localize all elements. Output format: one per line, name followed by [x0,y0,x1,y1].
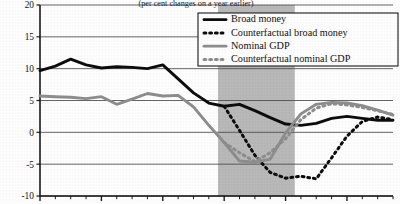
y-tick-label: -10 [22,191,35,201]
chart-legend: Broad moneyCounterfactual broad moneyNom… [198,13,398,66]
x-tick-label: 2010 [276,202,295,204]
x-tick-label: 2007 [92,202,111,204]
economic-line-chart: 20151050-5-10 200620072008200920102011 (… [0,0,400,203]
x-tick-label: 2009 [215,202,234,204]
legend-label: Counterfactual broad money [231,27,348,38]
y-tick-label: 5 [29,96,34,106]
y-tick-label: 15 [25,32,35,42]
y-tick-label: -5 [26,160,34,170]
legend-label: Counterfactual nominal GDP [231,53,351,64]
y-tick-label: 0 [29,128,34,138]
x-tick-label: 2011 [338,202,357,204]
x-tick-label: 2006 [30,202,49,204]
chart-subtitle: (per cent changes on a year earlier) [138,0,253,8]
x-tick-label: 2008 [153,202,172,204]
chart-container: 20151050-5-10 200620072008200920102011 (… [0,0,400,203]
legend-label: Broad money [231,13,287,24]
y-tick-label: 20 [25,0,35,10]
y-tick-label: 10 [25,64,35,74]
legend-label: Nominal GDP [231,40,290,51]
